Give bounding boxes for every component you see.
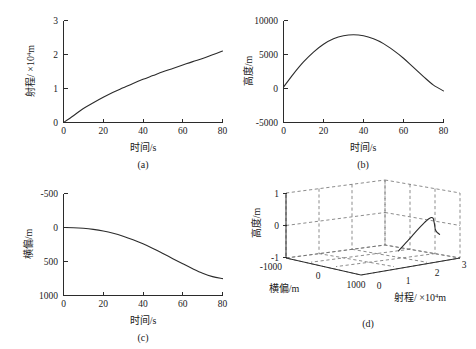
subplot-a: 0 1 2 3 0 20 40 60 80 射程/ ×104m 时间/s (a)	[0, 0, 238, 175]
y-axis-label-a-tail: m	[25, 45, 36, 53]
x-ticklabel: 20	[98, 299, 108, 309]
x-ticklabel: 40	[138, 299, 148, 309]
subplot-b: -5000 0 5000 10000 0 20 40 60 80 高度/m 时间…	[238, 0, 476, 175]
z-axis-label-d-text: 高度/m	[250, 208, 262, 239]
y-ticklabel: 1000	[347, 280, 366, 290]
x-axis-label-b: 时间/s	[350, 141, 377, 153]
y-ticklabel: 1	[53, 84, 58, 94]
axes-spines-c	[64, 194, 223, 296]
y-ticks-c	[64, 194, 68, 296]
x-ticklabel: 0	[61, 299, 66, 309]
caption-d: (d)	[362, 318, 374, 330]
data-curve-c	[64, 228, 223, 279]
subplot-b-canvas: -5000 0 5000 10000 0 20 40 60 80 高度/m 时间…	[238, 0, 476, 175]
x-ticks-b	[284, 119, 444, 123]
y-ticks-a	[64, 21, 68, 123]
axes-spines-a	[64, 21, 223, 123]
x-ticklabel: 20	[98, 126, 108, 136]
x-ticklabel: 60	[399, 126, 409, 136]
y-axis-label-a: 射程/ ×104m	[25, 45, 37, 97]
x-ticklabel: 60	[178, 126, 188, 136]
y-ticklabel: -5000	[256, 118, 278, 128]
y-ticklabel: 2	[53, 50, 58, 60]
y-axis-label-d: 横偏/m	[269, 282, 300, 294]
subplot-d-canvas: 1 0 -1 -1000 0 1000 0 1 2 3 高度/m 横偏/m 射程…	[238, 175, 476, 349]
x-axis-label-c: 时间/s	[130, 314, 157, 326]
x-ticklabel: 40	[359, 126, 369, 136]
y-axis-label-a-main: 射程/ ×10	[25, 56, 36, 97]
y-ticklabel: 5000	[259, 50, 278, 60]
x-ticklabel: 2	[435, 268, 440, 278]
x-ticklabel: 80	[218, 299, 228, 309]
caption-c: (c)	[137, 332, 148, 344]
x-axis-label-a: 时间/s	[130, 141, 157, 153]
x-ticklabel: 0	[281, 126, 286, 136]
x-ticklabel: 80	[218, 126, 228, 136]
figure-panel-grid: 0 1 2 3 0 20 40 60 80 射程/ ×104m 时间/s (a)	[0, 0, 476, 349]
x-ticklabel: 80	[439, 126, 449, 136]
y-ticklabel: 0	[53, 118, 58, 128]
x-ticklabel: 60	[178, 299, 188, 309]
y-axis-label-b-text: 高度/m	[242, 56, 254, 87]
z-ticklabel: 0	[274, 221, 279, 231]
y-ticklabel: -1000	[260, 262, 282, 272]
caption-b: (b)	[357, 159, 369, 171]
subplot-d: 1 0 -1 -1000 0 1000 0 1 2 3 高度/m 横偏/m 射程…	[238, 175, 476, 349]
x-ticklabel: 0	[61, 126, 66, 136]
y-ticklabel: 0	[273, 84, 278, 94]
y-ticklabel: 0	[53, 223, 58, 233]
x-axis-label-d: 射程/ ×104m	[394, 292, 446, 304]
x-ticklabel: 40	[138, 126, 148, 136]
y-ticklabel: 10000	[254, 16, 278, 26]
x-axis-label-d-main: 射程/ ×10	[394, 292, 435, 303]
grid-3d-d	[286, 180, 460, 275]
data-curve-b	[284, 35, 444, 91]
y-axis-label-c: 横偏/m	[22, 229, 34, 260]
y-ticklabel: -500	[41, 189, 59, 199]
x-axis-label-d-tail: m	[438, 292, 446, 303]
x-ticks-a	[64, 119, 223, 123]
caption-a: (a)	[137, 159, 148, 171]
y-ticklabel: 500	[44, 257, 59, 267]
data-curve-a	[64, 51, 223, 122]
x-ticklabel: 20	[319, 126, 329, 136]
z-ticklabel: 1	[274, 189, 279, 199]
x-ticklabel: 1	[406, 276, 411, 286]
y-ticklabel: 0	[316, 271, 321, 281]
y-ticks-b	[284, 21, 288, 123]
data-curve-3d-d	[399, 217, 440, 250]
subplot-c-canvas: -500 0 500 1000 0 20 40 60 80 横偏/m 时间/s …	[0, 175, 238, 349]
x-ticklabel: 0	[377, 281, 382, 291]
y-ticklabel: 1000	[39, 291, 58, 301]
y-axis-label-b: 高度/m	[242, 56, 254, 87]
subplot-c: -500 0 500 1000 0 20 40 60 80 横偏/m 时间/s …	[0, 175, 238, 349]
y-axis-label-c-text: 横偏/m	[22, 229, 34, 260]
y-ticklabel: 3	[53, 16, 58, 26]
x-ticklabel: 3	[462, 260, 467, 270]
z-axis-label-d: 高度/m	[250, 208, 262, 239]
subplot-a-canvas: 0 1 2 3 0 20 40 60 80 射程/ ×104m 时间/s (a)	[0, 0, 238, 175]
x-ticks-c	[64, 292, 223, 296]
svg-text:射程/ ×104m: 射程/ ×104m	[25, 45, 37, 97]
